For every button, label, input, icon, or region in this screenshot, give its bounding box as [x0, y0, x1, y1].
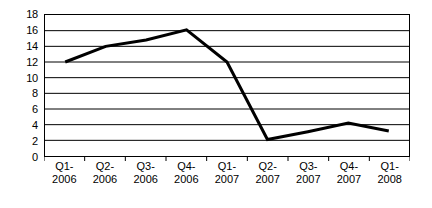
y-tick-label: 14 [0, 40, 38, 51]
line-chart: 024681012141618 Q1-2006Q2-2006Q3-2006Q4-… [0, 0, 432, 208]
x-tick-label: Q4-2007 [329, 160, 370, 186]
y-tick-label: 10 [0, 72, 38, 83]
y-tick-label: 0 [0, 152, 38, 163]
x-tick-label: Q1-2006 [44, 160, 85, 186]
data-series-line [45, 15, 409, 156]
x-tick-label-line1: Q1- [369, 160, 410, 173]
x-tick-label: Q3-2007 [288, 160, 329, 186]
x-tick-label-line2: 2007 [207, 173, 248, 186]
x-tick-label-line1: Q3- [125, 160, 166, 173]
x-tick-label-line2: 2006 [166, 173, 207, 186]
x-tick-label: Q2-2007 [247, 160, 288, 186]
series-line [65, 30, 389, 140]
x-tick-label: Q2-2006 [85, 160, 126, 186]
y-tick-label: 2 [0, 136, 38, 147]
x-tick-label-line1: Q1- [207, 160, 248, 173]
x-tick-label-line2: 2006 [44, 173, 85, 186]
x-tick-label: Q4-2006 [166, 160, 207, 186]
x-tick-label-line2: 2007 [329, 173, 370, 186]
x-tick-label: Q1-2008 [369, 160, 410, 186]
y-axis: 024681012141618 [0, 14, 38, 157]
x-tick-label-line1: Q4- [166, 160, 207, 173]
x-tick-label-line1: Q2- [85, 160, 126, 173]
x-tick-label-line2: 2007 [288, 173, 329, 186]
x-axis: Q1-2006Q2-2006Q3-2006Q4-2006Q1-2007Q2-20… [44, 160, 410, 200]
x-tick-label: Q3-2006 [125, 160, 166, 186]
x-tick-label-line1: Q2- [247, 160, 288, 173]
x-tick-label-line2: 2006 [85, 173, 126, 186]
x-tick-label-line1: Q1- [44, 160, 85, 173]
y-tick-label: 4 [0, 120, 38, 131]
y-tick-label: 6 [0, 104, 38, 115]
y-tick-label: 16 [0, 24, 38, 35]
x-tick-label-line1: Q3- [288, 160, 329, 173]
plot-area [44, 14, 410, 157]
y-tick-label: 18 [0, 9, 38, 20]
x-tick-label-line2: 2008 [369, 173, 410, 186]
y-tick-label: 12 [0, 56, 38, 67]
x-tick-label-line2: 2006 [125, 173, 166, 186]
x-tick-label-line1: Q4- [329, 160, 370, 173]
y-tick-label: 8 [0, 88, 38, 99]
x-tick-label: Q1-2007 [207, 160, 248, 186]
x-tick-label-line2: 2007 [247, 173, 288, 186]
